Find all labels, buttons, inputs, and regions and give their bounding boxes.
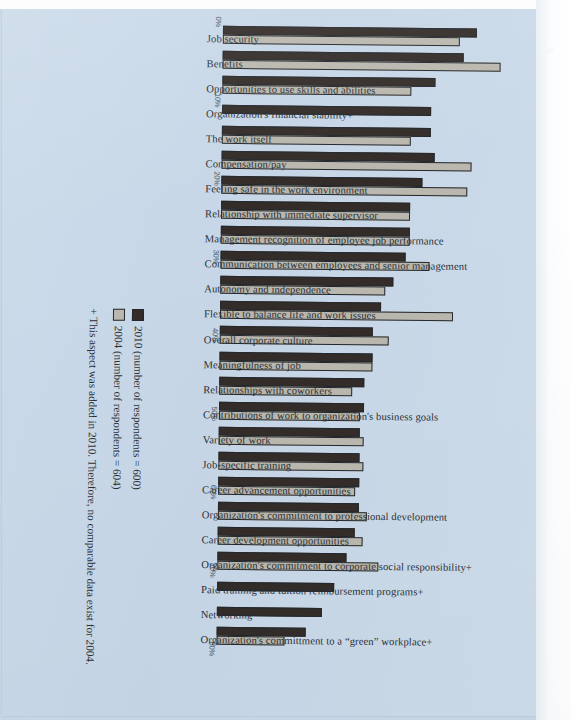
category-label: Organization's commitment to professiona… bbox=[201, 509, 446, 523]
bar-group bbox=[222, 21, 544, 49]
bar-chart: 0%10%20%30%40%50%60%70%80% Job securityB… bbox=[20, 7, 550, 712]
category-label: Paid training and tuition reimbursement … bbox=[201, 584, 424, 597]
category-label: Organization's financial stability+ bbox=[206, 107, 353, 120]
legend-footnote: + This aspect was added in 2010. Therefo… bbox=[79, 308, 102, 665]
scan-right-margin bbox=[536, 0, 571, 720]
category-label: Meaningfulness of job bbox=[203, 358, 301, 370]
category-label: Relationship with immediate supervisor bbox=[204, 208, 377, 221]
legend-swatch-2004 bbox=[112, 308, 124, 320]
category-label: Management recognition of employee job p… bbox=[204, 233, 443, 247]
category-label: Relationships with coworkers bbox=[203, 383, 332, 395]
category-label: Compensation/pay bbox=[205, 158, 286, 170]
category-label: Variety of work bbox=[202, 433, 270, 445]
legend-item-2004: 2004 (number of respondents = 604) bbox=[105, 308, 128, 665]
legend-label-2010: 2010 (number of respondents = 600) bbox=[126, 325, 147, 489]
category-label: Organization's committment to a “green” … bbox=[200, 634, 432, 647]
category-label: Networking bbox=[200, 609, 252, 621]
category-label: Job-specific training bbox=[202, 459, 291, 471]
category-label: Job security bbox=[206, 32, 258, 44]
category-label: The work itself bbox=[205, 133, 271, 145]
axis-tick-label: 10% bbox=[213, 92, 222, 107]
category-label: Feeling safe in the work environment bbox=[205, 183, 367, 196]
scan-top-margin bbox=[0, 0, 571, 9]
legend-swatch-2010 bbox=[132, 308, 144, 320]
category-label: Benefits bbox=[206, 57, 242, 68]
chart-legend: 2010 (number of respondents = 600) 2004 … bbox=[79, 308, 148, 665]
category-label: Flexible to balance life and work issues bbox=[203, 308, 375, 321]
category-label: Career advancement opportunities bbox=[202, 484, 351, 497]
legend-label-2004: 2004 (number of respondents = 604) bbox=[106, 325, 127, 489]
scanned-page: 0%10%20%30%40%50%60%70%80% Job securityB… bbox=[0, 0, 571, 720]
category-label: Career development opportunities bbox=[201, 534, 348, 547]
category-label: Autonomy and independence bbox=[204, 283, 331, 295]
category-label: Opportunities to use skills and abilitie… bbox=[206, 82, 375, 95]
rotated-chart-container: 0%10%20%30%40%50%60%70%80% Job securityB… bbox=[20, 7, 550, 712]
bar-group bbox=[222, 46, 544, 74]
category-label: Overall corporate culture bbox=[203, 333, 312, 345]
category-label: Contributions of work to organization's … bbox=[202, 408, 438, 421]
bar-group bbox=[216, 598, 538, 626]
axis-tick-label: 0% bbox=[213, 16, 222, 27]
